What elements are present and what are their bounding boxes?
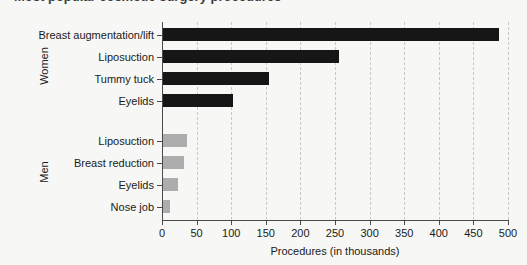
x-tick-label: 250 [326, 227, 344, 239]
x-tick-label: 500 [499, 227, 517, 239]
x-tick-mark [404, 220, 405, 225]
group-label-women: Women [38, 36, 50, 96]
bar [163, 94, 233, 107]
category-label: Liposuction [98, 51, 154, 63]
bar [163, 28, 499, 41]
plot-area: 050100150200250300350400450500 Breast au… [162, 22, 508, 220]
chart-container: Most popular cosmetic surgery procedures… [0, 0, 527, 265]
x-tick-mark [231, 220, 232, 225]
group-label-men: Men [38, 142, 50, 202]
category-tick [157, 57, 162, 58]
gridline [508, 22, 509, 220]
x-tick-label: 200 [291, 227, 309, 239]
gridline [404, 22, 405, 220]
x-tick-label: 50 [190, 227, 202, 239]
category-label: Eyelids [119, 95, 154, 107]
gridline [370, 22, 371, 220]
bar [163, 72, 269, 85]
category-label: Breast augmentation/lift [38, 29, 154, 41]
x-tick-mark [473, 220, 474, 225]
category-label: Liposuction [98, 135, 154, 147]
bar [163, 156, 184, 169]
gridline [473, 22, 474, 220]
category-tick [157, 35, 162, 36]
x-tick-mark [370, 220, 371, 225]
category-label: Nose job [111, 201, 154, 213]
x-tick-mark [197, 220, 198, 225]
category-tick [157, 185, 162, 186]
bar [163, 134, 187, 147]
x-tick-label: 0 [159, 227, 165, 239]
x-tick-mark [300, 220, 301, 225]
bar [163, 200, 170, 213]
chart-title-cropped: Most popular cosmetic surgery procedures [14, 0, 281, 4]
x-tick-label: 400 [430, 227, 448, 239]
x-tick-label: 100 [222, 227, 240, 239]
x-tick-label: 350 [395, 227, 413, 239]
x-tick-mark [508, 220, 509, 225]
category-tick [157, 207, 162, 208]
x-tick-mark [162, 220, 163, 225]
category-label: Tummy tuck [95, 73, 155, 85]
category-tick [157, 141, 162, 142]
bar [163, 178, 178, 191]
category-label: Eyelids [119, 179, 154, 191]
x-tick-mark [439, 220, 440, 225]
category-tick [157, 101, 162, 102]
category-tick [157, 79, 162, 80]
category-tick [157, 163, 162, 164]
x-axis-label: Procedures (in thousands) [162, 245, 508, 257]
bar [163, 50, 339, 63]
x-tick-label: 450 [464, 227, 482, 239]
x-tick-mark [266, 220, 267, 225]
x-tick-label: 300 [360, 227, 378, 239]
category-label: Breast reduction [74, 157, 154, 169]
x-tick-label: 150 [257, 227, 275, 239]
gridline [439, 22, 440, 220]
x-tick-mark [335, 220, 336, 225]
